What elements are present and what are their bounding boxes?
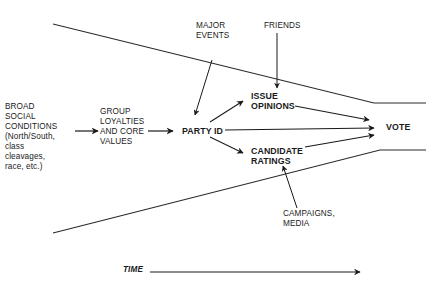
arrow-party-to-issues bbox=[210, 101, 243, 122]
arrow-events-to-party bbox=[195, 60, 212, 115]
node-candidate-ratings: CANDIDATE RATINGS bbox=[251, 146, 303, 166]
node-campaigns-media: CAMPAIGNS, MEDIA bbox=[283, 209, 335, 229]
node-vote: VOTE bbox=[386, 122, 410, 132]
time-axis-label: TIME bbox=[123, 265, 143, 275]
node-friends: FRIENDS bbox=[264, 21, 301, 31]
node-issue-opinions: ISSUE OPINIONS bbox=[251, 91, 295, 111]
node-major-events: MAJOR EVENTS bbox=[196, 21, 229, 41]
node-broad-social-conditions: BROAD SOCIAL CONDITIONS (North/South, cl… bbox=[5, 102, 57, 172]
funnel-top-boundary bbox=[53, 24, 426, 103]
funnel-bottom-boundary bbox=[53, 150, 426, 233]
node-group-loyalties: GROUP LOYALTIES AND CORE VALUES bbox=[100, 107, 144, 147]
node-party-id: PARTY ID bbox=[182, 126, 223, 136]
arrow-party-to-candidates bbox=[210, 137, 243, 153]
arrow-party-to-vote bbox=[225, 128, 374, 130]
arrow-candidates-to-vote bbox=[305, 135, 374, 147]
arrow-issues-to-vote bbox=[295, 106, 369, 120]
funnel-diagram bbox=[0, 0, 447, 287]
